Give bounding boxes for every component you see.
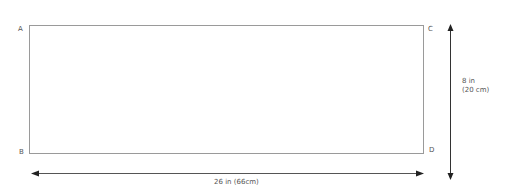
corner-label-d: D xyxy=(429,147,434,154)
width-label: 26 in (66cm) xyxy=(214,179,259,185)
panel-rectangle xyxy=(30,26,424,154)
corner-label-c: C xyxy=(428,26,433,33)
height-label-metric: (20 cm) xyxy=(462,87,489,94)
corner-label-b: B xyxy=(19,149,24,156)
height-dimension-arrow xyxy=(448,24,454,180)
width-dimension-arrow xyxy=(31,171,424,177)
height-label-imperial: 8 in xyxy=(462,78,475,85)
corner-label-a: A xyxy=(18,26,23,33)
